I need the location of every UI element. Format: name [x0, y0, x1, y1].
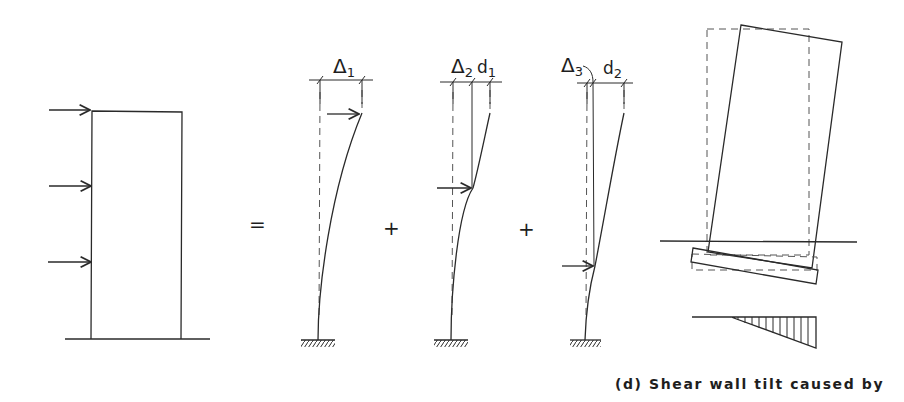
cantilever-1	[301, 76, 373, 347]
tilted-footing	[691, 248, 818, 284]
grade-line	[660, 241, 857, 242]
figure-caption: (d) Shear wall tilt caused by	[615, 377, 884, 391]
cantilever-2	[434, 78, 502, 347]
fixed-support-icon	[570, 340, 601, 347]
shear-wall-elevation	[48, 110, 210, 339]
fixed-support-icon	[434, 340, 468, 347]
delta-2-label: Δ2	[451, 56, 473, 76]
d1-label: d1	[477, 59, 496, 76]
delta-3-label: Δ3	[561, 55, 583, 75]
delta-1-label: Δ1	[333, 56, 355, 76]
fixed-support-icon	[301, 340, 335, 347]
original-footing-outline	[692, 254, 817, 270]
d2-label: d2	[603, 60, 622, 77]
delta3-leader	[583, 66, 593, 82]
equals-sign: =	[249, 214, 266, 234]
plus-sign-1: +	[383, 218, 400, 238]
original-wall-outline	[707, 29, 809, 255]
cantilever-3	[562, 66, 633, 347]
tilted-wall	[708, 25, 842, 268]
tilted-shear-wall	[660, 25, 857, 348]
plus-sign-2: +	[518, 219, 535, 239]
